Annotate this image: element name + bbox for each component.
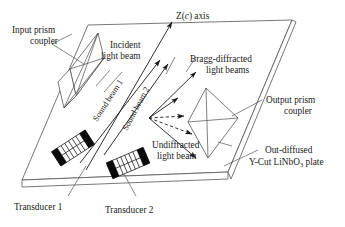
label-incident-line1: Incident (110, 40, 141, 50)
label-incident-line2: light beam (101, 51, 141, 61)
label-out-diffused-line1: Out-diffused (265, 145, 313, 155)
label-undiffracted-line1: Undiffracted (152, 140, 200, 150)
label-output-prism-line2: coupler (284, 106, 313, 116)
label-output-prism-coupler: Output prism coupler (266, 95, 318, 116)
figure-root: Input prism coupler Incident light beam … (0, 0, 345, 227)
label-z-axis-post: ) axis (189, 11, 210, 22)
label-output-prism-line1: Output prism (266, 95, 316, 105)
label-out-diffused-plate: Out-diffused Y-Cut LiNbO3 plate (249, 145, 324, 168)
label-out-diffused-line2: Y-Cut LiNbO3 plate (249, 157, 324, 168)
label-z-axis: Z(c) axis (176, 11, 210, 22)
label-out-diffused-formula-post: plate (303, 157, 323, 167)
label-input-prism-line2: coupler (30, 36, 59, 46)
label-undiffracted-light-beam: Undiffracted light beam (152, 140, 202, 161)
label-input-prism-coupler: Input prism coupler (12, 25, 59, 46)
label-bragg-line2: light beams (206, 65, 250, 75)
label-z-axis-pre: Z( (176, 11, 185, 22)
label-transducer-1: Transducer 1 (14, 202, 63, 212)
label-transducer-2: Transducer 2 (105, 205, 154, 215)
label-out-diffused-formula-pre: Y-Cut LiNbO (249, 157, 300, 167)
label-bragg-line1: Bragg-diffracted (190, 54, 252, 64)
label-undiffracted-line2: light beam (157, 151, 197, 161)
bragg-cell-diagram: Input prism coupler Incident light beam … (0, 0, 345, 227)
label-input-prism-line1: Input prism (12, 25, 56, 35)
